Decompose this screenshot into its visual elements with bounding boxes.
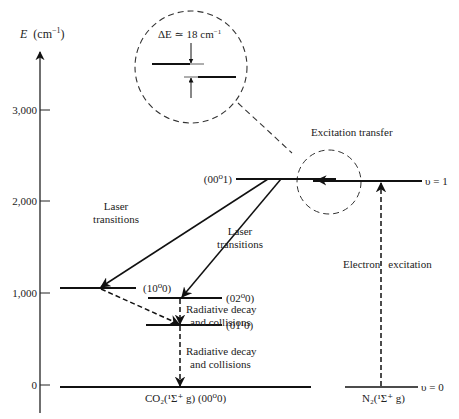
rad-decay-2-line1: Radiative decay (186, 345, 257, 357)
energy-axis: E (cm−1) 3,000 2,000 1,000 0 (12, 26, 64, 413)
tick-label-3000: 3,000 (12, 104, 37, 116)
axis-label: E (cm−1) (19, 26, 65, 41)
rad-decay-2-line2: and collisions (190, 358, 251, 370)
rad-decay-1-line2: and collisions (190, 316, 251, 328)
n2-v0-label: υ = 0 (421, 381, 444, 393)
tick-label-2000: 2,000 (12, 195, 37, 207)
tick-label-1000: 1,000 (12, 287, 37, 299)
decay-arrow-10-0 (101, 289, 179, 324)
co2-ground-label: CO₂(¹Σ⁺ g) (00⁰0) (145, 392, 227, 405)
laser-label-2-line2: transitions (217, 238, 263, 250)
excitation-transfer-label: Excitation transfer (311, 126, 393, 138)
laser-label-1-line2: transitions (93, 213, 139, 225)
inset-connector-line (238, 103, 292, 153)
laser-label-1-line1: Laser (104, 200, 129, 212)
inset-magnifier: ΔE ≃ 18 cm−1 (135, 11, 292, 153)
tick-label-0: 0 (32, 379, 38, 391)
n2-v1-label: υ = 1 (425, 175, 448, 187)
electron-excitation-label: Electronexcitation (343, 258, 432, 270)
co2-laser-energy-diagram: E (cm−1) 3,000 2,000 1,000 0 ΔE ≃ 18 cm−… (0, 0, 459, 419)
level-00-1-label: (00⁰1) (204, 173, 233, 186)
laser-label-2-line1: Laser (228, 225, 253, 237)
n2-ground-label: N₂(¹Σ⁺ g) (362, 392, 405, 405)
rad-decay-1-line1: Radiative decay (186, 303, 257, 315)
delta-e-label: ΔE ≃ 18 cm−1 (158, 28, 222, 40)
level-10-0-label: (10⁰0) (143, 282, 172, 295)
